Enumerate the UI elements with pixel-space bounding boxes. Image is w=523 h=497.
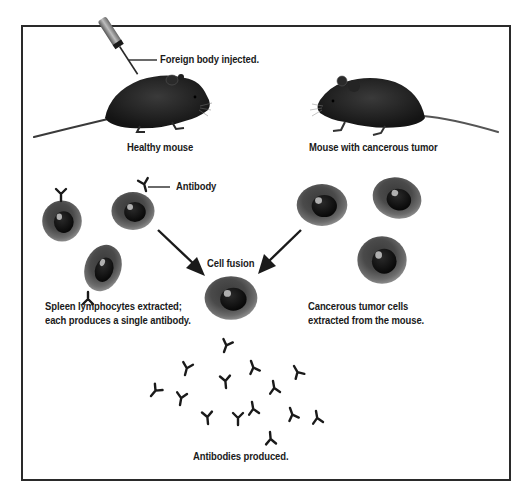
label-tumor-mouse: Mouse with cancerous tumor xyxy=(309,141,438,154)
antibodies-cluster xyxy=(147,339,323,444)
lymphocyte-cell xyxy=(111,178,170,230)
tumor-cell xyxy=(368,172,426,224)
lymphocyte-cell xyxy=(78,240,128,304)
syringe-icon xyxy=(97,16,157,77)
label-spleen-line2: each produces a single antibody. xyxy=(45,314,191,327)
label-healthy-mouse: Healthy mouse xyxy=(127,141,193,154)
lymphocyte-to-hybrid-arrow xyxy=(158,230,205,276)
label-tumor-cells-line2: extracted from the mouse. xyxy=(308,314,424,327)
lymphocyte-cell xyxy=(42,189,82,242)
hybridoma-cell xyxy=(205,276,258,320)
label-antibody: Antibody xyxy=(176,180,216,193)
diagram-canvas xyxy=(0,0,523,497)
label-antibodies-produced: Antibodies produced. xyxy=(193,450,289,463)
label-cell-fusion: Cell fusion xyxy=(207,257,254,270)
label-foreign-body-injected: Foreign body injected. xyxy=(160,53,259,66)
label-spleen-line1: Spleen lymphocytes extracted; xyxy=(45,300,182,313)
healthy-mouse xyxy=(34,74,212,137)
tumor-cell xyxy=(297,184,348,226)
tumor-mouse xyxy=(310,76,498,135)
label-tumor-cells-line1: Cancerous tumor cells xyxy=(308,300,408,313)
tumor-cell xyxy=(357,236,406,284)
tumor-cell-to-hybrid-arrow xyxy=(258,230,301,274)
